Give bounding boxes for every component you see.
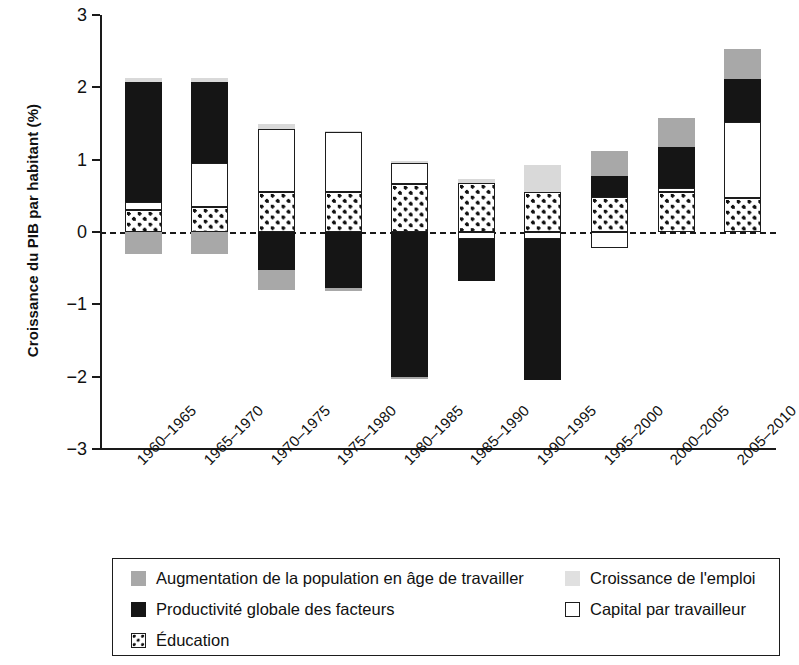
chart-legend: Augmentation de la population en âge de … [112, 558, 780, 656]
bar-segment-tfp[interactable] [325, 232, 362, 288]
bar-segment-capital[interactable] [524, 232, 561, 239]
legend-label: Augmentation de la population en âge de … [156, 569, 524, 588]
plot-area: 3210−1−2−3 [100, 15, 776, 449]
y-tick-label: −3 [66, 439, 87, 460]
y-tick-label: 0 [77, 222, 87, 243]
bar-segment-pop[interactable] [258, 270, 295, 290]
legend-label: Croissance de l'emploi [590, 569, 755, 588]
legend-swatch-educ-icon [131, 633, 146, 648]
bar-segment-emploi[interactable] [524, 165, 561, 192]
bar-segment-tfp[interactable] [258, 232, 295, 270]
legend-label: Capital par travailleur [590, 600, 746, 619]
bar-segment-educ[interactable] [724, 198, 761, 232]
bar-segment-pop[interactable] [591, 151, 628, 176]
bar-segment-tfp[interactable] [724, 79, 761, 122]
bar-segment-tfp[interactable] [391, 232, 428, 377]
y-tick-mark [92, 86, 100, 88]
legend-swatch-pop-icon [131, 571, 146, 586]
bar-group[interactable] [458, 15, 495, 449]
bar-group[interactable] [524, 15, 561, 449]
bar-segment-educ[interactable] [258, 192, 295, 232]
bar-segment-pop[interactable] [191, 232, 228, 254]
y-tick-label: −1 [66, 294, 87, 315]
bar-segment-capital[interactable] [258, 129, 295, 193]
bar-group[interactable] [125, 15, 162, 449]
bar-segment-tfp[interactable] [658, 147, 695, 188]
bar-segment-capital[interactable] [458, 232, 495, 239]
bar-segment-pop[interactable] [658, 118, 695, 147]
bar-segment-tfp[interactable] [524, 239, 561, 380]
y-tick-label: 1 [77, 149, 87, 170]
bar-group[interactable] [724, 15, 761, 449]
y-tick-mark [92, 376, 100, 378]
legend-swatch-capital-icon [565, 602, 580, 617]
bar-segment-tfp[interactable] [591, 176, 628, 197]
legend-swatch-emploi-icon [565, 571, 580, 586]
bar-segment-educ[interactable] [125, 210, 162, 232]
bar-segment-capital[interactable] [125, 202, 162, 211]
bar-segment-tfp[interactable] [458, 239, 495, 281]
y-axis-title: Croissance du PIB par habitant (%) [24, 11, 41, 451]
bar-segment-educ[interactable] [458, 183, 495, 232]
bar-segment-pop[interactable] [125, 232, 162, 254]
bar-segment-educ[interactable] [591, 197, 628, 232]
bar-series-container [100, 15, 776, 449]
bar-segment-pop[interactable] [724, 49, 761, 79]
legend-label: Éducation [156, 631, 229, 650]
bar-group[interactable] [191, 15, 228, 449]
y-tick-mark [92, 231, 100, 233]
legend-item[interactable]: Éducation [131, 631, 229, 650]
bar-segment-tfp[interactable] [191, 82, 228, 163]
y-tick-label: 2 [77, 77, 87, 98]
bar-group[interactable] [325, 15, 362, 449]
bar-segment-educ[interactable] [391, 184, 428, 232]
y-tick-label: 3 [77, 5, 87, 26]
y-tick-label: −2 [66, 366, 87, 387]
legend-item[interactable]: Capital par travailleur [565, 600, 746, 619]
y-tick-mark [92, 159, 100, 161]
legend-item[interactable]: Croissance de l'emploi [565, 569, 755, 588]
bar-group[interactable] [658, 15, 695, 449]
bar-segment-capital[interactable] [724, 122, 761, 198]
bar-segment-educ[interactable] [524, 192, 561, 232]
bar-segment-capital[interactable] [391, 163, 428, 185]
legend-label: Productivité globale des facteurs [156, 600, 394, 619]
bar-segment-pop[interactable] [391, 377, 428, 379]
bar-segment-educ[interactable] [325, 192, 362, 232]
y-tick-mark [92, 448, 100, 450]
bar-segment-capital[interactable] [191, 163, 228, 206]
bar-group[interactable] [391, 15, 428, 449]
legend-swatch-tfp-icon [131, 602, 146, 617]
y-tick-mark [92, 14, 100, 16]
bar-segment-tfp[interactable] [125, 82, 162, 201]
bar-group[interactable] [591, 15, 628, 449]
legend-item[interactable]: Productivité globale des facteurs [131, 600, 394, 619]
bar-group[interactable] [258, 15, 295, 449]
bar-segment-capital[interactable] [591, 232, 628, 248]
bar-segment-educ[interactable] [191, 207, 228, 232]
bar-segment-capital[interactable] [325, 132, 362, 192]
legend-item[interactable]: Augmentation de la population en âge de … [131, 569, 524, 588]
bar-segment-pop[interactable] [325, 288, 362, 291]
y-tick-mark [92, 303, 100, 305]
bar-segment-educ[interactable] [658, 192, 695, 232]
